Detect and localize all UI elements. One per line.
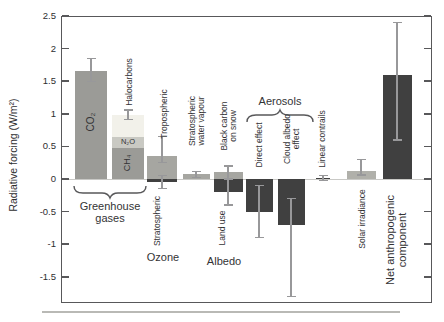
error-cap-black-carbon-on-snow <box>224 165 233 166</box>
ch4-label: CH₄ <box>123 155 132 172</box>
error-cap-co2 <box>87 58 96 59</box>
stratospheric-water-vapour-label: Stratosphericwater vapour <box>188 96 206 146</box>
error-cap-tropospheric-ozone <box>158 162 167 163</box>
error-cap-solar-irradiance <box>357 174 366 175</box>
error-cap-halocarbons <box>124 119 133 120</box>
error-bar-cloud-albedo-effect <box>290 199 291 297</box>
greenhouse-gases-label: Greenhousegases <box>80 200 141 224</box>
cloud-albedo-effect-label: Cloud albedoeffect <box>283 114 301 164</box>
albedo-label: Albedo <box>207 255 241 267</box>
error-cap-cloud-albedo-effect <box>287 198 296 199</box>
aerosols-label: Aerosols <box>259 95 302 107</box>
y-axis-tick-right <box>424 113 431 115</box>
error-cap-net-anthropogenic <box>393 22 402 23</box>
land-use-label: Land use <box>218 211 227 246</box>
error-bar-stratospheric-ozone <box>161 176 162 189</box>
error-cap-aerosol-direct-effect <box>255 237 264 238</box>
stratospheric-label: Stratospheric <box>153 196 162 246</box>
y-axis-tick-left <box>62 211 69 213</box>
y-axis-tick-label: 1 <box>30 109 56 119</box>
y-axis-tick-label: 1.5 <box>30 76 56 86</box>
y-axis-tick-label: 0 <box>30 174 56 184</box>
y-axis-tick-label: -1 <box>30 239 56 249</box>
error-bar-tropospheric-ozone <box>161 137 162 163</box>
solar-irradiance-label: Solar irradiance <box>358 189 367 249</box>
y-axis-tick-left <box>62 276 69 278</box>
error-bar-land-use <box>227 179 228 205</box>
y-axis-tick-right <box>424 276 431 278</box>
y-axis-tick-label: 2.5 <box>30 11 56 21</box>
error-cap-stratospheric-ozone <box>158 175 167 176</box>
error-cap-cloud-albedo-effect <box>287 296 296 297</box>
linear-contrails-label: Linear contrails <box>318 110 327 168</box>
y-axis-tick-left <box>62 15 69 17</box>
error-cap-solar-irradiance <box>357 159 366 160</box>
error-cap-land-use <box>224 204 233 205</box>
error-bar-net-anthropogenic <box>396 23 397 140</box>
error-cap-stratospheric-water-vapour <box>192 171 201 172</box>
y-axis-tick-label: -1.5 <box>30 272 56 282</box>
y-axis-tick-right <box>424 80 431 82</box>
y-axis-tick-left <box>62 243 69 245</box>
error-bar-black-carbon-on-snow <box>227 166 228 179</box>
error-cap-stratospheric-ozone <box>158 188 167 189</box>
bottom-rule <box>42 311 400 313</box>
y-axis-tick-right <box>424 211 431 213</box>
error-cap-net-anthropogenic <box>393 139 402 140</box>
error-cap-stratospheric-water-vapour <box>192 177 201 178</box>
y-axis-tick-left <box>62 178 69 180</box>
ozone-label: Ozone <box>147 251 179 263</box>
y-axis-tick-left <box>62 80 69 82</box>
error-cap-linear-contrails <box>319 175 328 176</box>
halocarbons-label: Halocarbons <box>125 58 134 106</box>
error-cap-aerosol-direct-effect <box>255 185 264 186</box>
black-carbon-on-snow-label: Black carbonon snow <box>220 101 238 150</box>
y-axis-title: Radiative forcing (W/m²) <box>7 98 19 211</box>
tropospheric-label: Tropospheric <box>160 89 169 138</box>
y-axis-tick-right <box>424 48 431 50</box>
net-anthropogenic-label: Net anthropogeniccomponent <box>385 195 408 285</box>
y-axis-tick-label: 2 <box>30 44 56 54</box>
error-cap-halocarbons <box>124 109 133 110</box>
y-axis-tick-right <box>424 243 431 245</box>
co2-label: CO₂ <box>86 113 97 132</box>
y-axis-tick-label: 0.5 <box>30 141 56 151</box>
y-axis-tick-label: -0.5 <box>30 207 56 217</box>
error-cap-land-use <box>224 178 233 179</box>
error-cap-co2 <box>87 81 96 82</box>
y-axis-tick-right <box>424 146 431 148</box>
y-axis-tick-right <box>424 178 431 180</box>
error-bar-solar-irradiance <box>360 159 361 175</box>
y-axis-tick-right <box>424 15 431 17</box>
n2o-label: N₂O <box>121 138 135 146</box>
y-axis-tick-left <box>62 146 69 148</box>
error-bar-aerosol-direct-effect <box>258 186 259 238</box>
direct-effect-label: Direct effect <box>255 122 264 167</box>
y-axis-tick-left <box>62 48 69 50</box>
error-cap-linear-contrails <box>319 180 328 181</box>
error-bar-co2 <box>90 58 91 81</box>
radiative-forcing-chart: Radiative forcing (W/m²) 2.521.510.50-0.… <box>0 0 444 322</box>
y-axis-tick-left <box>62 113 69 115</box>
